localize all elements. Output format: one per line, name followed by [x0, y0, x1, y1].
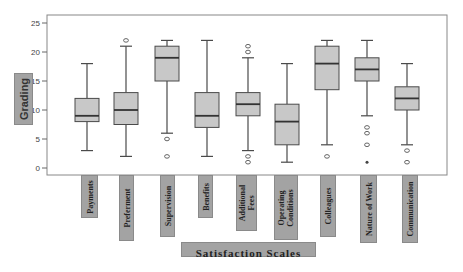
category-label-communication: Communication — [402, 175, 418, 243]
y-axis: 0510152025 — [31, 19, 47, 173]
x-axis-title-text: Satisfaction Scales — [196, 247, 301, 259]
category-label-colleagues: Colleagues — [320, 175, 336, 237]
extreme-marker — [366, 161, 369, 164]
y-tick-label: 25 — [31, 19, 40, 28]
y-tick-label: 0 — [36, 164, 41, 173]
y-axis-title: Grading — [14, 73, 33, 125]
category-label-payments: Payments — [81, 175, 98, 218]
category-label-nature-of-work: Nature of Work — [360, 175, 377, 243]
y-tick-label: 5 — [36, 135, 41, 144]
boxplot-chart: 0510152025 — [0, 0, 463, 272]
category-label-preferment: Preferment — [119, 175, 134, 241]
category-label-operating-conditions: Operating Conditions — [274, 175, 298, 240]
y-axis-title-text: Grading — [18, 78, 30, 120]
category-label-supervision: Supervision — [160, 175, 175, 237]
x-axis-title: Satisfaction Scales — [181, 242, 316, 257]
y-tick-label: 20 — [31, 48, 40, 57]
category-label-additional-fees: Additional Fees — [236, 175, 257, 231]
category-label-benefits: Benefits — [198, 175, 213, 218]
